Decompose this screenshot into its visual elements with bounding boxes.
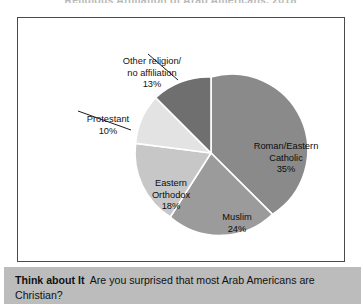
pie-label-other-religion-line1: Other religion/	[104, 56, 200, 68]
figure-title: Religious Affiliation of Arab Americans,…	[0, 0, 361, 3]
think-about-it-caption: Think about It Are you surprised that mo…	[4, 267, 361, 304]
pie-label-protestant-line1: Protestant	[65, 114, 151, 126]
pie-label-eastern-orthodox-value: 18%	[131, 201, 211, 213]
caption-text: Think about It Are you surprised that mo…	[15, 273, 351, 302]
caption-lead-label: Think about It	[15, 274, 84, 286]
pie-label-eastern-orthodox-line2: Orthodox	[131, 190, 211, 202]
pie-label-roman-eastern-catholic-line1: Roman/Eastern	[234, 141, 338, 153]
pie-label-roman-eastern-catholic-value: 35%	[234, 164, 338, 176]
pie-label-eastern-orthodox: Eastern Orthodox 18%	[131, 178, 211, 213]
pie-label-roman-eastern-catholic-line2: Catholic	[234, 153, 338, 165]
pie-label-muslim-line1: Muslim	[204, 212, 270, 224]
pie-label-muslim: Muslim 24%	[204, 212, 270, 235]
pie-label-muslim-value: 24%	[204, 224, 270, 236]
pie-label-protestant: Protestant 10%	[65, 114, 151, 137]
pie-label-other-religion: Other religion/ no affiliation 13%	[104, 56, 200, 91]
pie-label-roman-eastern-catholic: Roman/Eastern Catholic 35%	[234, 141, 338, 176]
pie-label-other-religion-value: 13%	[104, 79, 200, 91]
pie-label-protestant-value: 10%	[65, 126, 151, 138]
chart-frame: Other religion/ no affiliation 13% Prote…	[17, 17, 345, 262]
pie-label-other-religion-line2: no affiliation	[104, 68, 200, 80]
pie-label-eastern-orthodox-line1: Eastern	[131, 178, 211, 190]
